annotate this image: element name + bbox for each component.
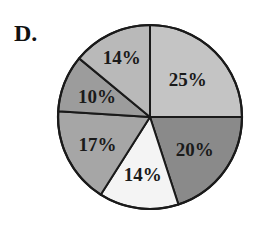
slice-label: 14% xyxy=(124,164,162,185)
slice-label: 25% xyxy=(169,69,207,90)
slice-label: 20% xyxy=(176,139,214,160)
slice-label: 14% xyxy=(103,47,141,68)
slice-label: 10% xyxy=(78,86,116,107)
slice-label: 17% xyxy=(79,134,117,155)
pie-chart: 25%20%14%17%10%14% xyxy=(0,0,254,229)
